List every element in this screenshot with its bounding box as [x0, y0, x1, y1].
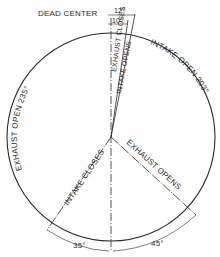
dead-center-label: DEAD CENTER — [38, 9, 98, 18]
intake-open-duration-label: INTAKE OPEN 203° — [149, 38, 210, 95]
intake-closes-label: INTAKE CLOSES — [62, 148, 106, 207]
valve-timing-diagram: DEAD CENTER 12° 10° EXHAUST CLOSES INTAK… — [0, 0, 220, 257]
angle-45-label: 45° — [151, 239, 164, 248]
exhaust-opens-line — [111, 137, 196, 215]
exhaust-open-duration-label: EXHAUST OPEN 235° — [10, 84, 32, 172]
exhaust-opens-label: EXHAUST OPENS — [125, 138, 183, 192]
angle-35-label: 35° — [73, 241, 86, 250]
